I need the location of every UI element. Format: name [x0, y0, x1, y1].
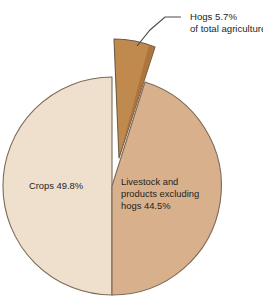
hogs-callout-line1: Hogs 5.7% — [190, 11, 237, 22]
pie-chart: Hogs 5.7% of total agriculture Crops 49.… — [0, 0, 263, 300]
livestock-slice-label-line3: hogs 44.5% — [121, 200, 171, 211]
livestock-slice-label-line1: Livestock and — [121, 176, 178, 187]
livestock-slice-label-line2: products excluding — [121, 188, 199, 199]
pie-chart-svg: Hogs 5.7% of total agriculture Crops 49.… — [0, 0, 263, 300]
hogs-callout-line2: of total agriculture — [190, 23, 263, 34]
hogs-leader-line — [137, 17, 181, 46]
crops-slice-label: Crops 49.8% — [29, 180, 83, 191]
